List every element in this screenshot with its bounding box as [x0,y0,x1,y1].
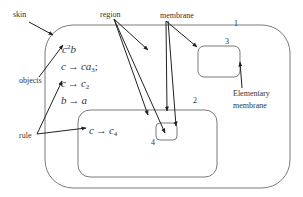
objects-label: objects [19,76,42,85]
membrane-number-1: 1 [234,19,238,28]
elementary-arrow-icon [240,62,242,88]
membrane-number-4: 4 [151,138,155,147]
region-label: region [100,10,120,19]
rule-arrow-to-c4-icon [37,128,86,134]
membrane-arrow-2-icon [166,21,167,111]
rule-b-to-a: b→a [61,94,88,106]
skin-label: skin [13,10,26,19]
rule-arrow-to-c2-icon [37,81,62,134]
elementary-membrane-label: membrane [233,101,267,110]
membrane-label: membrane [160,11,194,20]
membrane-number-3: 3 [225,37,229,46]
rule-label: rule [19,131,32,140]
region-arrow-membrane2-icon [114,19,148,115]
svg-text:c→c2: c→c2 [61,77,90,91]
elementary-membrane-3 [198,46,240,77]
membrane-diagram: 1 3 2 4 skin region membrane objects rul… [0,0,303,197]
membrane-4 [156,123,177,140]
svg-text:b→a: b→a [61,94,88,106]
skin-arrow-icon [29,22,53,35]
elementary-label: Elementary [233,89,270,98]
svg-text:c→c4: c→c4 [89,124,118,138]
svg-text:c→ca3;: c→ca3; [61,60,98,74]
objects-multiset: c2b [62,43,76,55]
region-arrow-membrane4-icon [114,19,165,133]
svg-text:c2b: c2b [62,43,76,55]
objects-arrow-icon [39,45,63,77]
rule-c-to-ca3: c→ca3; [61,60,98,74]
rule-c-to-c4: c→c4 [89,124,118,138]
membrane-number-2: 2 [193,96,197,105]
membrane-2 [78,110,217,177]
rule-c-to-c2: c→c2 [61,77,90,91]
